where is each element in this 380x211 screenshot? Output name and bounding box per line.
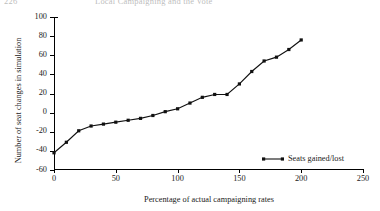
y-tick-label: 80 [39, 31, 47, 40]
series-line [54, 40, 301, 153]
series-data-point [275, 56, 278, 59]
series-data-point [263, 59, 266, 62]
y-tick-label: -20 [36, 126, 47, 135]
series-data-point [188, 101, 191, 104]
series-data-point [114, 121, 117, 124]
y-axis-label: Number of seat changes in simulation [14, 21, 23, 181]
series-data-point [65, 141, 68, 144]
x-tick-mark [363, 169, 364, 173]
plot-area: -60-40-20020406080100 050100150200250 [54, 17, 363, 170]
y-tick-label: 20 [39, 88, 47, 97]
series-data-point [250, 70, 253, 73]
line-chart: Number of seat changes in simulation -60… [0, 8, 380, 208]
y-tick-label: -60 [36, 165, 47, 174]
x-axis-label: Percentage of actual campaigning rates [54, 195, 364, 204]
series-data-point [201, 96, 204, 99]
series-data-point [102, 123, 105, 126]
running-head: 226 Local Campaigning and the Vote [0, 0, 380, 6]
folio-number: 226 [4, 0, 17, 6]
x-tick-label: 150 [219, 174, 259, 183]
legend-label: Seats gained/lost [288, 154, 344, 163]
figure-page: 226 Local Campaigning and the Vote Numbe… [0, 0, 380, 211]
legend-marker-icon [262, 155, 284, 163]
series-data-point [287, 48, 290, 51]
chart-legend: Seats gained/lost [262, 154, 344, 163]
series-data-point [213, 93, 216, 96]
series-data-point [77, 129, 80, 132]
x-tick-label: 200 [281, 174, 321, 183]
running-head-title: Local Campaigning and the Vote [95, 0, 213, 6]
series-data-point [300, 38, 303, 41]
series-data-point [151, 114, 154, 117]
series-data-point [225, 93, 228, 96]
series-data-point [238, 82, 241, 85]
y-tick-label: 40 [39, 69, 47, 78]
x-tick-label: 0 [34, 174, 74, 183]
y-tick-label: 100 [35, 12, 47, 21]
x-tick-label: 250 [343, 174, 380, 183]
series-data-point [139, 117, 142, 120]
series-data-point [127, 119, 130, 122]
series-data-point [164, 110, 167, 113]
x-tick-label: 50 [96, 174, 136, 183]
series-data-point [176, 107, 179, 110]
y-tick-label: 60 [39, 50, 47, 59]
series-data-point [52, 151, 55, 154]
x-tick-label: 100 [158, 174, 198, 183]
y-tick-label: -40 [36, 145, 47, 154]
series-data-point [89, 124, 92, 127]
y-tick-label: 0 [43, 107, 47, 116]
series-seats-gained-lost [54, 17, 363, 170]
